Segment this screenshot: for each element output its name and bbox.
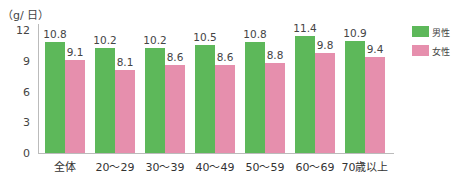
legend-label: 男性 <box>432 26 450 39</box>
value-label: 10.5 <box>190 31 220 43</box>
x-tick-label: 40〜49 <box>190 158 240 174</box>
bar-male <box>45 42 65 153</box>
value-label: 10.2 <box>90 34 120 46</box>
y-tick-label: 3 <box>0 116 30 129</box>
value-label: 9.4 <box>360 43 390 55</box>
legend-swatch-male <box>412 26 429 37</box>
value-label: 11.4 <box>290 22 320 34</box>
legend-swatch-female <box>412 45 429 56</box>
x-tick-label: 30〜39 <box>140 158 190 174</box>
bar-female <box>165 65 185 153</box>
value-label: 10.9 <box>340 27 370 39</box>
y-axis <box>38 24 39 154</box>
bar-female <box>315 53 335 153</box>
y-tick-label: 9 <box>0 54 30 67</box>
x-axis <box>38 153 394 154</box>
legend-label: 女性 <box>432 45 450 58</box>
value-label: 10.8 <box>240 28 270 40</box>
bar-female <box>115 70 135 153</box>
value-label: 9.1 <box>60 46 90 58</box>
value-label: 10.8 <box>40 28 70 40</box>
y-tick-label: 0 <box>0 147 30 160</box>
x-tick-label: 全体 <box>40 158 90 174</box>
x-tick-label: 70歳以上 <box>340 158 390 174</box>
bar-female <box>65 60 85 153</box>
bar-male <box>295 36 315 153</box>
bar-male <box>145 48 165 153</box>
x-tick-label: 50〜59 <box>240 158 290 174</box>
value-label: 8.8 <box>260 49 290 61</box>
value-label: 9.8 <box>310 39 340 51</box>
x-tick-label: 20〜29 <box>90 158 140 174</box>
y-tick-label: 6 <box>0 85 30 98</box>
bar-female <box>265 63 285 153</box>
bar-female <box>365 57 385 153</box>
value-label: 8.1 <box>110 56 140 68</box>
value-label: 8.6 <box>160 51 190 63</box>
y-unit-label: （g/ 日） <box>2 6 49 22</box>
x-tick-label: 60〜69 <box>290 158 340 174</box>
value-label: 10.2 <box>140 34 170 46</box>
bar-female <box>215 65 235 153</box>
value-label: 8.6 <box>210 51 240 63</box>
bar-male <box>345 41 365 153</box>
y-tick-label: 12 <box>0 24 30 37</box>
